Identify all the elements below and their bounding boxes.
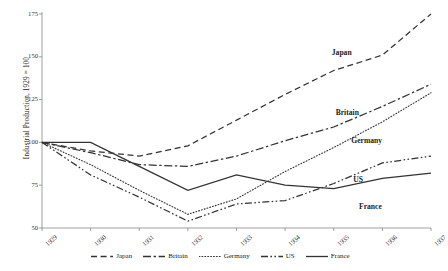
y-tick-label: 50 bbox=[12, 225, 38, 232]
y-tick-label: 175 bbox=[12, 11, 38, 18]
legend-label: Germany bbox=[224, 252, 250, 260]
legend-item-japan[interactable]: Japan bbox=[91, 252, 132, 260]
legend-swatch-us bbox=[261, 253, 283, 260]
y-axis-ticks: 1751501251007550 bbox=[4, 0, 38, 271]
legend-label: Japan bbox=[116, 252, 132, 260]
legend-swatch-germany bbox=[199, 253, 221, 260]
legend-item-us[interactable]: US bbox=[261, 252, 295, 260]
legend-item-britain[interactable]: Britain bbox=[143, 252, 187, 260]
legend-label: France bbox=[331, 252, 350, 260]
legend-label: US bbox=[286, 252, 295, 260]
chart-legend: JapanBritainGermanyUSFrance bbox=[0, 252, 441, 260]
series-label-us: US bbox=[353, 176, 363, 184]
legend-item-germany[interactable]: Germany bbox=[199, 252, 250, 260]
legend-swatch-britain bbox=[143, 253, 165, 260]
series-label-britain: Britain bbox=[336, 109, 359, 117]
series-line-japan bbox=[42, 14, 431, 156]
series-label-germany: Germany bbox=[351, 137, 382, 145]
series-label-japan: Japan bbox=[332, 49, 352, 57]
series-label-france: France bbox=[359, 203, 382, 211]
legend-swatch-japan bbox=[91, 253, 113, 260]
y-axis-title: Industrial Production, 1929 = 100 bbox=[23, 23, 31, 193]
legend-item-france[interactable]: France bbox=[306, 252, 350, 260]
legend-swatch-france bbox=[306, 253, 328, 260]
series-line-britain bbox=[42, 84, 431, 166]
series-line-germany bbox=[42, 93, 431, 215]
series-line-france bbox=[42, 142, 431, 190]
legend-label: Britain bbox=[168, 252, 187, 260]
